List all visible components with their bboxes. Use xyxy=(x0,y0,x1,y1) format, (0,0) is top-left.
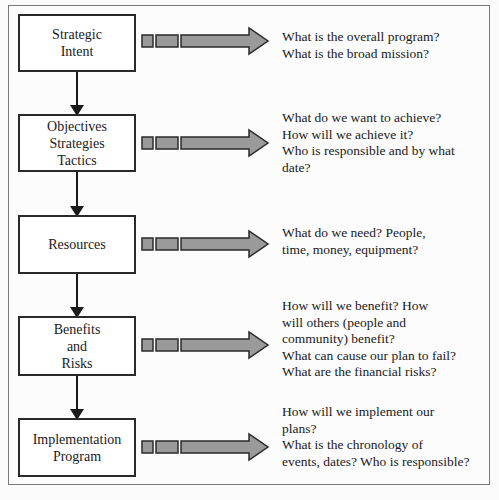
down-arrow-icon xyxy=(76,72,78,114)
stage-label: Strategic Intent xyxy=(52,26,102,60)
right-arrow-icon xyxy=(141,26,271,56)
stage-label: Benefits and Risks xyxy=(54,321,101,372)
stage-description: What is the overall program? What is the… xyxy=(282,29,439,62)
right-arrow-icon xyxy=(141,128,271,158)
stage-description: What do we want to achieve? How will we … xyxy=(282,110,455,176)
stage-label: Resources xyxy=(48,236,106,253)
stage-box-benefits-risks: Benefits and Risks xyxy=(18,316,136,376)
down-arrow-icon xyxy=(76,274,78,316)
stage-label: Implementation Program xyxy=(33,431,122,465)
stage-label: Objectives Strategies Tactics xyxy=(47,118,107,169)
right-arrow-icon xyxy=(141,330,271,360)
stage-description: What do we need? People, time, money, eq… xyxy=(282,225,426,258)
stage-box-strategic-intent: Strategic Intent xyxy=(18,14,136,72)
stage-box-implementation: Implementation Program xyxy=(18,418,136,477)
stage-description: How will we benefit? How will others (pe… xyxy=(282,298,456,381)
right-arrow-icon xyxy=(141,432,271,462)
stage-box-resources: Resources xyxy=(18,215,136,274)
down-arrow-icon xyxy=(76,376,78,418)
down-arrow-icon xyxy=(76,172,78,215)
stage-description: How will we implement our plans? What is… xyxy=(282,404,470,470)
stage-box-objectives: Objectives Strategies Tactics xyxy=(18,114,136,172)
right-arrow-icon xyxy=(141,229,271,259)
